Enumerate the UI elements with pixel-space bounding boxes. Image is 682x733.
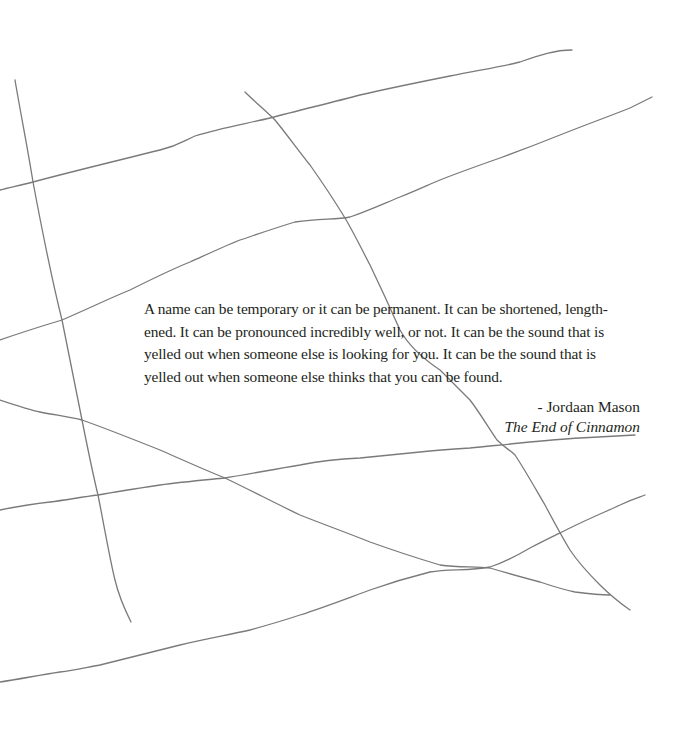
quote-text: A name can be temporary or it can be per… bbox=[144, 298, 649, 388]
quote-line: ened. It can be pronounced incredibly we… bbox=[144, 323, 604, 340]
quote-block: A name can be temporary or it can be per… bbox=[144, 298, 649, 388]
hand-drawn-line-a bbox=[15, 80, 131, 622]
quote-line: yelled out when someone else is looking … bbox=[144, 345, 596, 362]
hand-drawn-line-g bbox=[0, 495, 645, 682]
quote-line: yelled out when someone else thinks that… bbox=[144, 368, 502, 385]
quote-line: A name can be temporary or it can be per… bbox=[144, 300, 608, 317]
hand-drawn-line-f bbox=[0, 435, 635, 510]
hand-drawn-line-b bbox=[0, 50, 572, 190]
book-title: The End of Cinnamon bbox=[504, 417, 640, 437]
attribution: - Jordaan Mason The End of Cinnamon bbox=[504, 397, 640, 437]
author-name: - Jordaan Mason bbox=[504, 397, 640, 417]
